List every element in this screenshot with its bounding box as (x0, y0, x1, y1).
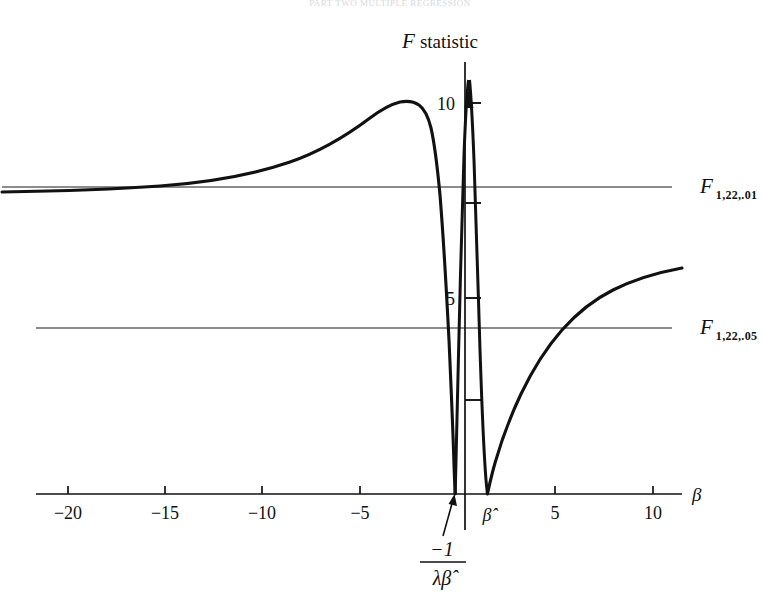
x-label-beta-hat: β̂ (482, 505, 499, 525)
y-tick-label-5: 5 (446, 289, 455, 309)
x-tick-label-neg5: −5 (350, 503, 369, 523)
y-axis-title: Fstatistic (401, 29, 478, 53)
x-axis-title: β (691, 484, 702, 505)
annotation-denominator: λβ̂ (432, 567, 460, 590)
x-tick-label-neg15: −15 (151, 503, 179, 523)
annotation-numerator: −1 (430, 538, 454, 560)
curve-left-branch (2, 101, 455, 494)
x-tick-label-neg20: −20 (54, 503, 82, 523)
x-tick-label-neg10: −10 (248, 503, 276, 523)
curve-spike-descent (470, 80, 488, 494)
reference-label-f01: F1,22,.01 (699, 174, 757, 202)
f-statistic-chart: Fstatistic β 10 5 −20 −15 −10 −5 5 10 β̂… (0, 0, 763, 597)
y-tick-label-10: 10 (437, 94, 455, 114)
annotation-neg-one-over-lambda-beta-hat: −1 λβ̂ (420, 494, 466, 590)
curve-right-branch (487, 268, 682, 494)
curve-spike-branch (455, 80, 468, 494)
reference-label-f05: F1,22,.05 (699, 315, 757, 343)
x-axis-ticks (68, 486, 653, 494)
x-tick-label-10: 10 (644, 503, 662, 523)
x-tick-label-5: 5 (551, 503, 560, 523)
